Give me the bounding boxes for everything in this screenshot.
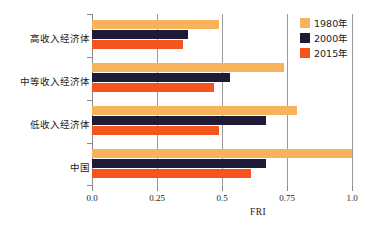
legend-item-2000: 2000年 [300,31,348,45]
legend-swatch-2000 [300,33,310,43]
x-axis-tick [222,186,223,191]
x-axis-tick [287,186,288,191]
bar-2015 [92,126,219,135]
bar-1980 [92,149,352,158]
bar-2015 [92,40,183,49]
x-axis-tick [92,186,93,191]
x-axis-tick [157,186,158,191]
bar-2000 [92,73,230,82]
category-label-low-income: 低收入经济体 [30,119,90,130]
x-tick-label: 0.25 [149,193,165,203]
legend-label-2015: 2015年 [314,46,348,60]
gridline-0.75 [287,14,288,186]
gridline-1.00 [352,14,353,186]
x-axis-title: FRI [250,207,266,217]
y-axis-tick [87,14,92,15]
y-axis-tick [87,100,92,101]
x-tick-label: 0.5 [216,193,227,203]
legend-item-1980: 1980年 [300,16,348,30]
bar-1980 [92,20,219,29]
bar-1980 [92,106,297,115]
bar-2015 [92,169,251,178]
bar-chart: 高收入经济体 中等收入经济体 低收入经济体 中国 0.0 0.25 0.5 0.… [0,0,372,231]
bar-2015 [92,83,214,92]
bar-1980 [92,63,284,72]
bar-2000 [92,159,266,168]
x-axis-title-wrap: FRI [0,207,372,217]
x-tick-label: 0.0 [86,193,97,203]
x-tick-label: 1.0 [346,193,357,203]
bar-2000 [92,116,266,125]
bar-2000 [92,30,188,39]
legend-swatch-1980 [300,18,310,28]
x-axis-tick [352,186,353,191]
legend-item-2015: 2015年 [300,46,348,60]
legend-swatch-2015 [300,48,310,58]
legend-label-1980: 1980年 [314,16,348,30]
y-axis-tick [87,143,92,144]
x-tick-label: 0.75 [279,193,295,203]
category-label-middle-income: 中等收入经济体 [20,76,90,87]
category-label-high-income: 高收入经济体 [30,33,90,44]
category-label-china: 中国 [70,162,90,173]
legend-label-2000: 2000年 [314,31,348,45]
y-axis-tick [87,57,92,58]
chart-legend: 1980年 2000年 2015年 [300,16,348,61]
